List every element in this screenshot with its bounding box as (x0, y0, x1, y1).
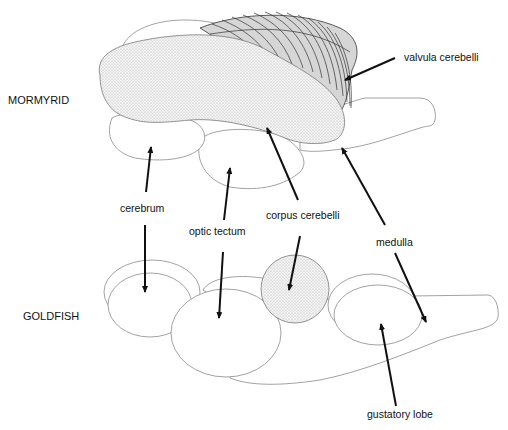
label-medulla: medulla (376, 237, 413, 248)
goldfish-brain (104, 255, 498, 384)
arrow-medulla-up (342, 148, 385, 225)
species-label-goldfish: GOLDFISH (23, 311, 79, 322)
brain-comparison-diagram (0, 0, 508, 430)
label-corpus-cerebelli: corpus cerebelli (266, 210, 340, 221)
goldfish-gustatory-lobe (334, 285, 422, 345)
label-valvula-cerebelli: valvula cerebelli (404, 52, 479, 63)
label-cerebrum: cerebrum (120, 203, 164, 214)
label-optic-tectum: optic tectum (189, 226, 246, 237)
label-gustatory-lobe: gustatory lobe (367, 409, 433, 420)
species-label-mormyrid: MORMYRID (8, 95, 69, 106)
